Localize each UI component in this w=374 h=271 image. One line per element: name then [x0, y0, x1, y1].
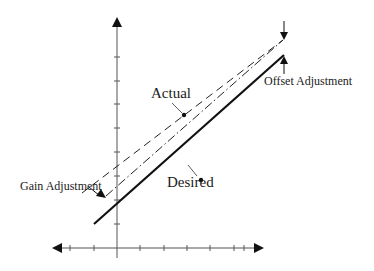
transfer-function-diagram: Actual Desired Offset Adjustment Gain Ad… [0, 0, 374, 271]
x-axis-right-arrow-icon [254, 243, 264, 253]
desired-label: Desired [167, 175, 214, 190]
offset-adjustment-label: Offset Adjustment [264, 75, 352, 87]
x-axis-left-arrow-icon [52, 243, 62, 253]
actual-point [182, 113, 186, 117]
gain-adjustment-label: Gain Adjustment [20, 180, 102, 192]
offset-adjustment-indicator [280, 21, 288, 74]
x-axis [52, 243, 264, 253]
y-axis-arrow-icon [112, 17, 122, 27]
offset-down-arrow-icon [280, 32, 288, 40]
y-axis [112, 17, 122, 258]
actual-leader-line [172, 103, 182, 113]
diagram-graphics [0, 0, 374, 271]
desired-line [94, 55, 284, 224]
actual-label: Actual [151, 86, 191, 101]
